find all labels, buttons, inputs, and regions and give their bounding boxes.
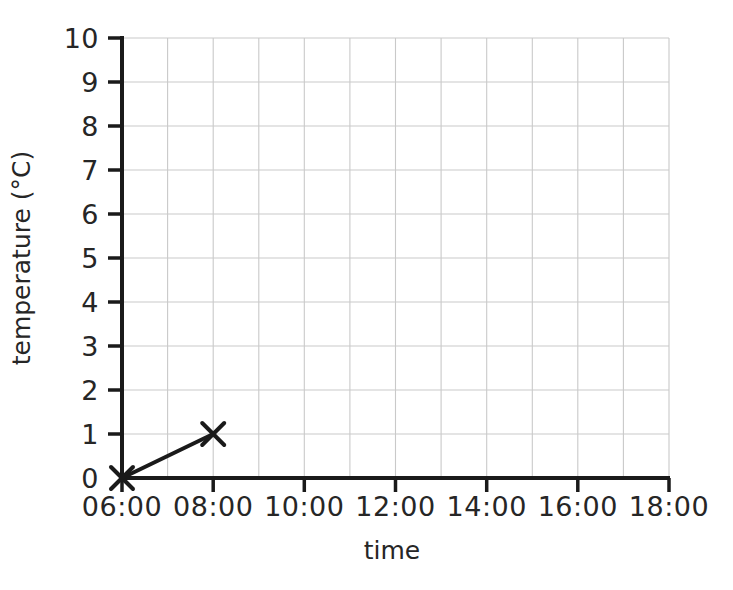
y-tick-label: 3 — [81, 331, 99, 362]
temperature-vs-time-line-chart: 10 9 8 7 6 5 4 3 2 1 0 06:00 08:00 10:00… — [0, 0, 733, 590]
x-tick-label: 18:00 — [629, 491, 709, 522]
x-tick-labels: 06:00 08:00 10:00 12:00 14:00 16:00 18:0… — [82, 491, 709, 522]
y-axis-title: temperature (°C) — [7, 151, 36, 366]
y-tick-label: 10 — [64, 23, 99, 54]
x-tick-label: 16:00 — [538, 491, 618, 522]
x-tick-label: 14:00 — [447, 491, 527, 522]
x-axis-title: time — [364, 536, 420, 565]
y-tick-label: 5 — [81, 243, 99, 274]
x-tick-label: 08:00 — [173, 491, 253, 522]
y-tick-label: 0 — [81, 463, 99, 494]
y-tick-label: 9 — [81, 67, 99, 98]
chart-container: 10 9 8 7 6 5 4 3 2 1 0 06:00 08:00 10:00… — [0, 0, 733, 590]
x-tick-label: 12:00 — [355, 491, 435, 522]
x-tick-label: 06:00 — [82, 491, 162, 522]
y-tick-label: 2 — [81, 375, 99, 406]
y-tick-label: 6 — [81, 199, 99, 230]
y-tick-label: 4 — [81, 287, 99, 318]
y-tick-label: 1 — [81, 419, 99, 450]
x-tick-label: 10:00 — [264, 491, 344, 522]
y-tick-label: 8 — [81, 111, 99, 142]
y-tick-label: 7 — [81, 155, 99, 186]
